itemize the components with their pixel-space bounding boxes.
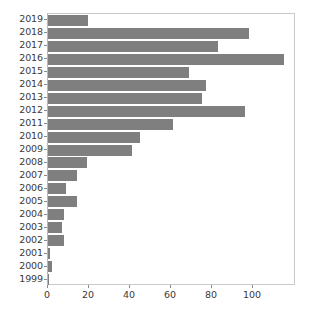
bar-row (48, 247, 294, 260)
bar-row (48, 234, 294, 247)
y-tick-label-2019: 2019 (3, 14, 43, 24)
bar-row (48, 92, 294, 105)
y-tick-mark-2017 (44, 45, 47, 46)
bar-2001 (48, 248, 50, 259)
x-tick-label-0: 0 (27, 290, 67, 300)
bar-2006 (48, 183, 66, 194)
y-tick-mark-2019 (44, 19, 47, 20)
bar-row (48, 144, 294, 157)
y-tick-label-1999: 1999 (3, 274, 43, 284)
x-tick-label-100: 100 (232, 290, 272, 300)
bar-2011 (48, 119, 173, 130)
bar-row (48, 53, 294, 66)
bar-2013 (48, 93, 202, 104)
y-tick-label-2007: 2007 (3, 170, 43, 180)
y-tick-label-2013: 2013 (3, 92, 43, 102)
y-tick-label-2015: 2015 (3, 66, 43, 76)
y-tick-mark-2007 (44, 175, 47, 176)
x-tick-label-60: 60 (150, 290, 190, 300)
bar-2004 (48, 209, 64, 220)
y-tick-mark-2012 (44, 110, 47, 111)
bar-row (48, 221, 294, 234)
y-tick-mark-2010 (44, 136, 47, 137)
y-tick-label-2010: 2010 (3, 131, 43, 141)
bar-row (48, 131, 294, 144)
x-tick-label-80: 80 (191, 290, 231, 300)
bar-row (48, 169, 294, 182)
x-tick-mark-40 (129, 285, 130, 288)
y-tick-label-2002: 2002 (3, 235, 43, 245)
bar-chart-figure: 2019201820172016201520142013201220112010… (0, 0, 311, 317)
bar-2017 (48, 41, 218, 52)
y-tick-label-2006: 2006 (3, 183, 43, 193)
y-tick-label-2004: 2004 (3, 209, 43, 219)
y-tick-label-2008: 2008 (3, 157, 43, 167)
bar-2015 (48, 67, 189, 78)
bar-row (48, 182, 294, 195)
y-tick-mark-2016 (44, 58, 47, 59)
x-tick-mark-80 (211, 285, 212, 288)
y-axis-tick-labels: 2019201820172016201520142013201220112010… (0, 13, 43, 285)
y-tick-label-2000: 2000 (3, 261, 43, 271)
bar-2007 (48, 170, 77, 181)
bar-row (48, 27, 294, 40)
bar-2002 (48, 235, 64, 246)
y-tick-mark-2006 (44, 188, 47, 189)
bar-2018 (48, 28, 249, 39)
y-tick-label-2005: 2005 (3, 196, 43, 206)
plot-area (47, 13, 295, 285)
bar-row (48, 195, 294, 208)
x-axis-tick-labels: 020406080100 (47, 290, 295, 304)
y-tick-mark-2008 (44, 162, 47, 163)
y-tick-label-2016: 2016 (3, 53, 43, 63)
bar-2010 (48, 132, 140, 143)
y-tick-mark-2011 (44, 123, 47, 124)
bar-1999 (48, 274, 49, 285)
x-tick-label-20: 20 (68, 290, 108, 300)
bar-2009 (48, 145, 132, 156)
bar-2005 (48, 196, 77, 207)
y-tick-label-2017: 2017 (3, 40, 43, 50)
bar-row (48, 156, 294, 169)
bar-2003 (48, 222, 62, 233)
bar-2012 (48, 106, 245, 117)
bar-row (48, 40, 294, 53)
y-tick-mark-1999 (44, 279, 47, 280)
x-tick-mark-60 (170, 285, 171, 288)
x-tick-label-40: 40 (109, 290, 149, 300)
bar-row (48, 260, 294, 273)
y-tick-mark-2001 (44, 253, 47, 254)
bar-2014 (48, 80, 206, 91)
y-tick-label-2001: 2001 (3, 248, 43, 258)
y-tick-mark-2015 (44, 71, 47, 72)
bar-2016 (48, 54, 284, 65)
bar-2019 (48, 15, 88, 26)
y-tick-label-2011: 2011 (3, 118, 43, 128)
y-tick-label-2018: 2018 (3, 27, 43, 37)
y-tick-mark-2000 (44, 266, 47, 267)
y-tick-label-2012: 2012 (3, 105, 43, 115)
y-tick-mark-2013 (44, 97, 47, 98)
x-tick-mark-0 (47, 285, 48, 288)
bar-2008 (48, 157, 87, 168)
bar-row (48, 66, 294, 79)
x-tick-mark-100 (252, 285, 253, 288)
bar-row (48, 14, 294, 27)
bar-2000 (48, 261, 52, 272)
y-axis-tick-marks (44, 13, 47, 285)
bar-row (48, 105, 294, 118)
bar-row (48, 118, 294, 131)
y-tick-mark-2005 (44, 201, 47, 202)
y-tick-label-2014: 2014 (3, 79, 43, 89)
y-tick-label-2003: 2003 (3, 222, 43, 232)
bar-row (48, 79, 294, 92)
y-tick-mark-2002 (44, 240, 47, 241)
y-tick-mark-2004 (44, 214, 47, 215)
bar-row (48, 208, 294, 221)
y-tick-mark-2018 (44, 32, 47, 33)
y-tick-label-2009: 2009 (3, 144, 43, 154)
y-tick-mark-2003 (44, 227, 47, 228)
y-tick-mark-2009 (44, 149, 47, 150)
x-tick-mark-20 (88, 285, 89, 288)
y-tick-mark-2014 (44, 84, 47, 85)
